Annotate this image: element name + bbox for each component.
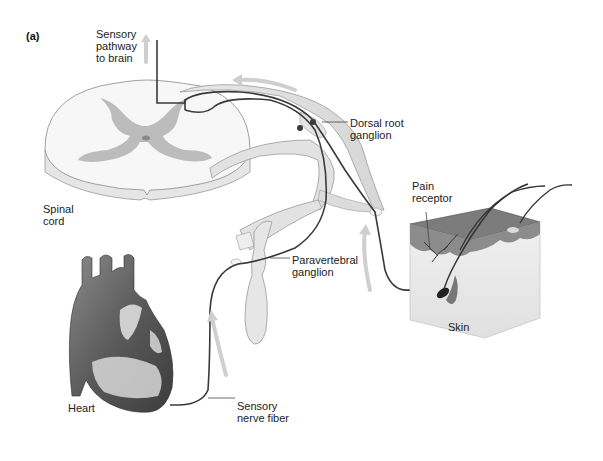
label-paravertebral-ganglion: Paravertebral ganglion xyxy=(292,254,358,278)
label-sensory-pathway: Sensory pathway to brain xyxy=(96,28,137,64)
diagram-canvas: (a) Sensory pathway to brain Spinal cord… xyxy=(0,0,603,461)
label-dorsal-root-ganglion: Dorsal root ganglion xyxy=(350,117,404,141)
label-heart: Heart xyxy=(68,402,95,414)
skin-block xyxy=(410,184,572,338)
heart-illustration xyxy=(69,254,173,412)
label-pain-receptor: Pain receptor xyxy=(412,180,452,204)
panel-label: (a) xyxy=(26,30,39,42)
label-spinal-cord: Spinal cord xyxy=(43,203,74,227)
label-skin: Skin xyxy=(448,321,469,333)
label-sensory-nerve-fiber: Sensory nerve fiber xyxy=(237,400,289,424)
spinal-cord xyxy=(45,80,250,200)
